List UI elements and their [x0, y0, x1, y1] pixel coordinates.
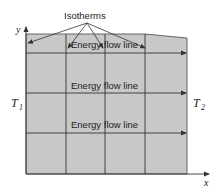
flow-label-3: Energy flow line: [71, 119, 138, 130]
x-axis-label: x: [203, 177, 209, 188]
heat-flow-diagram: Isotherms Energy flow line Energy flow l…: [0, 0, 221, 192]
t2-label: T 2: [193, 96, 205, 112]
svg-text:1: 1: [19, 103, 23, 112]
y-axis-label: y: [15, 24, 21, 35]
svg-text:T: T: [11, 96, 19, 110]
flow-label-1: Energy flow line: [71, 39, 138, 50]
isotherms-label: Isotherms: [64, 10, 106, 21]
svg-text:T: T: [193, 96, 201, 110]
conduction-region: [26, 34, 187, 174]
flow-label-2: Energy flow line: [71, 80, 138, 91]
svg-text:2: 2: [201, 103, 205, 112]
t1-label: T 1: [11, 96, 23, 112]
